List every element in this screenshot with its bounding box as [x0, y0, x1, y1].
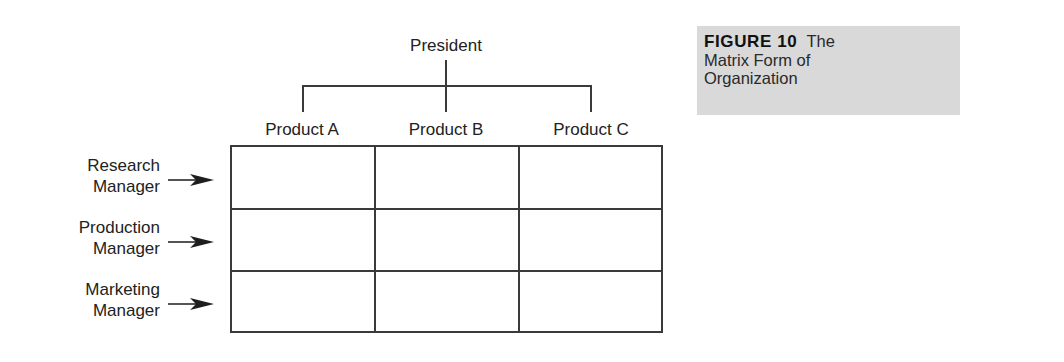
- grid-divider-col-2: [518, 145, 520, 333]
- figure-number: FIGURE 10: [704, 32, 797, 51]
- row-label-research-manager: Research Manager: [20, 155, 160, 197]
- row-label-line2: Manager: [20, 300, 160, 321]
- caption-line-3: Organization: [704, 69, 954, 87]
- row-label-line2: Manager: [20, 238, 160, 259]
- connector-product-c: [590, 85, 592, 112]
- row-label-marketing-manager: Marketing Manager: [20, 279, 160, 321]
- caption-line-2: Matrix Form of: [704, 51, 954, 69]
- figure-caption: FIGURE 10 The Matrix Form of Organizatio…: [697, 26, 960, 115]
- grid-divider-row-1: [230, 208, 663, 210]
- grid-divider-row-2: [230, 270, 663, 272]
- row-label-line2: Manager: [20, 176, 160, 197]
- row-label-line1: Marketing: [20, 279, 160, 300]
- president-node: President: [410, 36, 482, 56]
- caption-line-1: FIGURE 10 The: [704, 32, 954, 51]
- arrow-right-icon: [166, 172, 216, 188]
- column-header-product-b: Product B: [409, 120, 484, 140]
- arrow-right-icon: [166, 296, 216, 312]
- column-header-product-c: Product C: [553, 120, 629, 140]
- grid-divider-col-1: [374, 145, 376, 333]
- caption-title-part1: The: [806, 32, 834, 50]
- row-label-line1: Production: [20, 217, 160, 238]
- row-label-production-manager: Production Manager: [20, 217, 160, 259]
- column-header-product-a: Product A: [265, 120, 339, 140]
- row-label-line1: Research: [20, 155, 160, 176]
- matrix-grid: [230, 145, 663, 333]
- connector-product-a: [302, 85, 304, 112]
- connector-horizontal: [302, 85, 592, 87]
- arrow-right-icon: [166, 234, 216, 250]
